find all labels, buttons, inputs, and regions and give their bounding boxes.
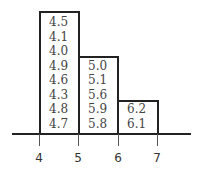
x-tick: [39, 134, 40, 146]
value: 5.0: [88, 59, 107, 74]
value: 4.8: [49, 102, 68, 117]
x-tick-label: 5: [74, 151, 82, 165]
value: 5.1: [88, 73, 107, 88]
bar-values: 5.0 5.1 5.6 5.9 5.8: [88, 59, 107, 132]
value: 6.1: [127, 117, 146, 132]
value: 4.6: [49, 73, 68, 88]
value: 4.0: [49, 44, 68, 59]
bar-5-6: 5.0 5.1 5.6 5.9 5.8: [78, 56, 119, 135]
x-tick: [118, 134, 119, 146]
value: 4.3: [49, 88, 68, 103]
x-tick-label: 6: [114, 151, 122, 165]
value: 4.1: [49, 30, 68, 45]
value: 4.7: [49, 117, 68, 132]
value: 5.6: [88, 88, 107, 103]
value: 5.9: [88, 102, 107, 117]
bar-values: 6.2 6.1: [127, 102, 146, 131]
x-tick-label: 4: [35, 151, 43, 165]
bar-values: 4.5 4.1 4.0 4.9 4.6 4.3 4.8 4.7: [49, 15, 68, 131]
value: 4.9: [49, 59, 68, 74]
value: 4.5: [49, 15, 68, 30]
bar-6-7: 6.2 6.1: [117, 100, 159, 135]
value: 5.8: [88, 117, 107, 132]
x-tick: [78, 134, 79, 146]
x-tick-label: 7: [153, 151, 161, 165]
value: 6.2: [127, 102, 146, 117]
bar-4-5: 4.5 4.1 4.0 4.9 4.6 4.3 4.8 4.7: [39, 11, 80, 135]
x-tick: [157, 134, 158, 146]
